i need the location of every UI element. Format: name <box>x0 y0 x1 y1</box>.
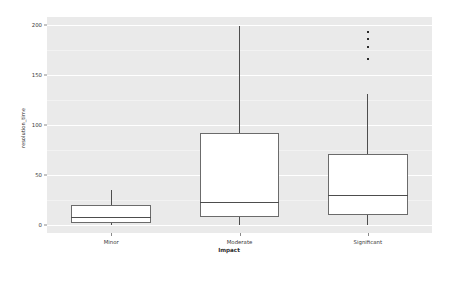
plot-area <box>47 17 432 233</box>
whisker-lower <box>367 215 368 225</box>
median-line <box>71 217 151 218</box>
box-iqr-rect <box>71 205 151 223</box>
box-significant <box>328 17 408 233</box>
whisker-upper <box>239 26 240 133</box>
whisker-lower <box>239 217 240 225</box>
whisker-upper <box>367 94 368 154</box>
ytick-label-150: 150 <box>20 72 42 78</box>
outlier-point <box>367 38 370 41</box>
ytick-label-100: 100 <box>20 122 42 128</box>
xtick-label-minor: Minor <box>104 239 119 245</box>
box-moderate <box>200 17 280 233</box>
outlier-point <box>367 31 370 34</box>
yaxis-title: resolution_time <box>20 88 26 168</box>
box-iqr-rect <box>200 133 280 217</box>
whisker-upper <box>111 190 112 205</box>
ytick-label-0: 0 <box>20 222 42 228</box>
xtick-label-significant: Significant <box>354 239 382 245</box>
median-line <box>200 202 280 203</box>
outlier-point <box>367 58 370 61</box>
boxplot-figure: resolution_time 050100150200 MinorModera… <box>0 0 458 281</box>
median-line <box>328 195 408 196</box>
xaxis-title: Impact <box>0 247 458 253</box>
ytick-label-50: 50 <box>20 172 42 178</box>
outlier-point <box>367 46 370 49</box>
ytick-label-200: 200 <box>20 22 42 28</box>
xtick-mark-moderate <box>240 233 241 236</box>
xtick-label-moderate: Moderate <box>227 239 253 245</box>
xtick-mark-significant <box>368 233 369 236</box>
whisker-lower <box>111 223 112 225</box>
xtick-mark-minor <box>111 233 112 236</box>
box-minor <box>71 17 151 233</box>
box-iqr-rect <box>328 154 408 215</box>
